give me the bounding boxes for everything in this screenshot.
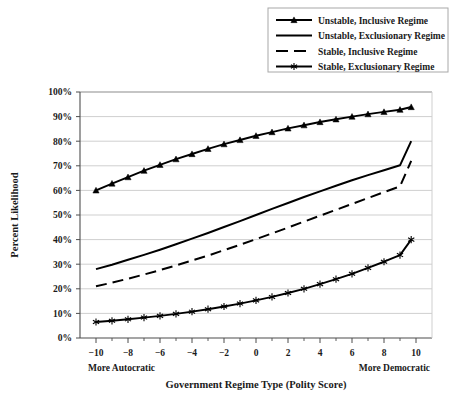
y-axis-tick-label: 20%	[53, 284, 72, 294]
y-axis-tick-label: 10%	[53, 309, 72, 319]
legend-label-3: Stable, Exclusionary Regime	[318, 62, 434, 72]
x-axis-right-annotation: More Democratic	[359, 363, 430, 373]
chart-legend: Unstable, Inclusive RegimeUnstable, Excl…	[268, 8, 448, 72]
regime-likelihood-line-chart: 0%10%20%30%40%50%60%70%80%90%100% −10−8−…	[0, 0, 455, 400]
y-axis-tick-label: 40%	[53, 235, 72, 245]
y-axis-tick-label: 90%	[53, 112, 72, 122]
legend-label-0: Unstable, Inclusive Regime	[318, 16, 428, 26]
x-axis-tick-label: 8	[382, 348, 387, 358]
x-axis-tick-label: −4	[187, 348, 197, 358]
x-axis-tick-label: −2	[219, 348, 229, 358]
x-axis-tick-label: −6	[155, 348, 165, 358]
y-axis-tick-label: 0%	[58, 333, 72, 343]
x-axis-tick-label: 4	[318, 348, 323, 358]
x-axis-title: Government Regime Type (Polity Score)	[166, 379, 347, 391]
y-axis-tick-label: 100%	[48, 87, 72, 97]
x-axis-left-annotation: More Autocratic	[88, 363, 155, 373]
y-axis-tick-label: 80%	[53, 137, 72, 147]
y-axis-tick-label: 50%	[53, 210, 72, 220]
y-axis-tick-label: 30%	[53, 260, 72, 270]
y-axis-title: Percent Likelihood	[9, 172, 20, 257]
x-axis-tick-label: 10	[411, 348, 421, 358]
y-axis-tick-label: 60%	[53, 186, 72, 196]
x-axis-tick-label: 0	[254, 348, 259, 358]
chart-figure: 0%10%20%30%40%50%60%70%80%90%100% −10−8−…	[0, 0, 455, 400]
x-axis-tick-label: 2	[286, 348, 291, 358]
legend-label-1: Unstable, Exclusionary Regime	[318, 31, 445, 41]
x-axis-tick-label: 6	[350, 348, 355, 358]
y-axis-tick-label: 70%	[53, 161, 72, 171]
legend-label-2: Stable, Inclusive Regime	[318, 47, 417, 57]
x-axis-tick-label: −8	[123, 348, 133, 358]
x-axis-tick-label: −10	[89, 348, 104, 358]
